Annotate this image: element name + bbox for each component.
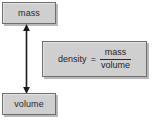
double-headed-vertical-arrow-icon [22, 24, 31, 94]
density-diagram: mass volume density = mass volume [0, 0, 153, 121]
formula-left-hand-side: density [58, 55, 87, 64]
node-box-volume: volume [2, 93, 56, 115]
node-box-mass: mass [2, 2, 56, 24]
node-label-mass: mass [18, 9, 40, 18]
formula-panel: density = mass volume [42, 41, 147, 77]
fraction-numerator: mass [104, 47, 128, 58]
node-label-volume: volume [14, 100, 44, 109]
formula-expression: density = mass volume [58, 47, 131, 71]
formula-equals-sign: = [91, 55, 96, 64]
fraction-denominator: volume [100, 60, 131, 71]
formula-fraction: mass volume [100, 47, 131, 71]
arrow-svg [22, 24, 31, 94]
